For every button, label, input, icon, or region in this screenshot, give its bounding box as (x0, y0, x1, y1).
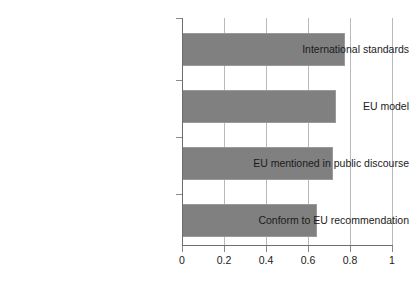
bar-chart: International standards EU model EU ment… (0, 0, 415, 282)
y-axis-line (182, 18, 183, 246)
x-axis-label-0.2: 0.2 (209, 254, 239, 266)
x-axis-label-1: 1 (377, 254, 407, 266)
x-axis-label-0: 0 (167, 254, 197, 266)
x-tick-0.6 (308, 246, 309, 252)
x-tick-0 (182, 246, 183, 252)
x-tick-1 (392, 246, 393, 252)
x-axis-label-0.8: 0.8 (335, 254, 365, 266)
category-label-conform-to-eu-recommendation: Conform to EU recommendation (239, 214, 415, 226)
x-tick-0.2 (224, 246, 225, 252)
category-label-eu-model: EU model (239, 100, 415, 112)
x-axis-label-0.4: 0.4 (251, 254, 281, 266)
x-tick-0.4 (266, 246, 267, 252)
category-label-eu-mentioned-in-public-discourse: EU mentioned in public discourse (239, 157, 415, 169)
x-axis-label-0.6: 0.6 (293, 254, 323, 266)
category-label-international-standards: International standards (239, 43, 415, 55)
x-tick-0.8 (350, 246, 351, 252)
x-axis-line (182, 245, 393, 246)
